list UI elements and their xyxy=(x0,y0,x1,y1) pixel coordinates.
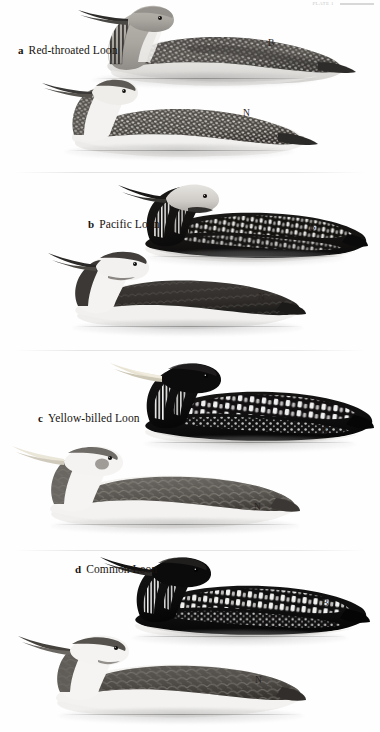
species-label-pacific-loon: bPacific Loon xyxy=(88,218,160,230)
waterline xyxy=(68,150,292,151)
species-letter: c xyxy=(38,412,43,424)
illustration-plate: PLATE 1 xyxy=(0,0,380,732)
species-block-common-loon: dCommon Loon B N xyxy=(0,552,380,732)
section-divider xyxy=(14,550,366,551)
species-letter: a xyxy=(18,44,24,56)
section-divider xyxy=(14,172,366,173)
plumage-tag-nonbreeding: N xyxy=(255,675,262,685)
species-label-red-throated-loon: aRed-throated Loon xyxy=(18,44,118,56)
waterline xyxy=(54,524,298,525)
plumage-tag-breeding: B xyxy=(268,38,275,48)
species-block-yellow-billed-loon: cYellow-billed Loon B N xyxy=(0,352,380,552)
waterline xyxy=(148,442,354,443)
plumage-tag-nonbreeding: N xyxy=(258,292,265,302)
species-name: Red-throated Loon xyxy=(29,44,118,56)
plumage-tag-nonbreeding: N xyxy=(243,108,250,118)
water-wash xyxy=(50,518,300,534)
plumage-tag-breeding: B xyxy=(322,598,329,608)
species-letter: b xyxy=(88,218,94,230)
water-wash xyxy=(58,708,304,724)
species-name: Yellow-billed Loon xyxy=(48,412,140,424)
species-name: Pacific Loon xyxy=(99,218,159,230)
species-letter: d xyxy=(75,563,81,575)
species-block-pacific-loon: bPacific Loon B N xyxy=(0,176,380,352)
water-wash xyxy=(64,144,294,160)
waterline xyxy=(62,714,302,715)
plumage-tag-breeding: B xyxy=(309,222,316,232)
waterline xyxy=(76,326,302,327)
section-divider xyxy=(14,350,366,351)
species-label-yellow-billed-loon: cYellow-billed Loon xyxy=(38,412,140,424)
water-wash xyxy=(72,320,304,336)
species-block-red-throated-loon: aRed-throated Loon B N xyxy=(0,0,380,176)
species-label-common-loon: dCommon Loon xyxy=(75,563,157,575)
species-name: Common Loon xyxy=(86,563,157,575)
plumage-tag-breeding: B xyxy=(321,426,328,436)
plumage-tag-nonbreeding: N xyxy=(254,502,261,512)
